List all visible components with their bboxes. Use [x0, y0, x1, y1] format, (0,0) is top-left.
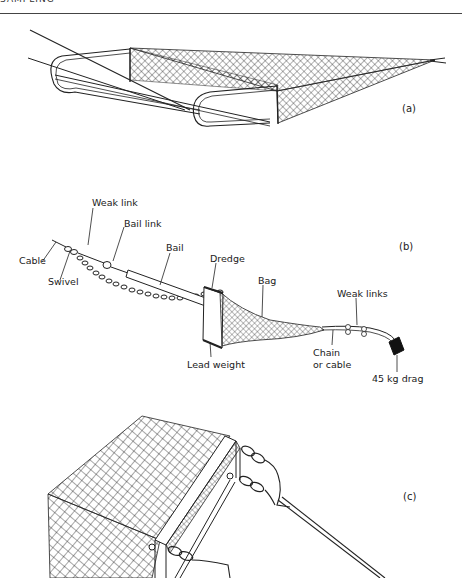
panel-c-drawing: [48, 416, 385, 578]
label-chain: Chain: [313, 348, 340, 358]
label-bail: Bail: [166, 243, 184, 253]
panel-label-c: (c): [403, 491, 416, 502]
figure-drawings: [0, 0, 462, 578]
label-bag: Bag: [258, 276, 276, 286]
panel-a-drawing: [28, 30, 446, 126]
label-lead-weight: Lead weight: [187, 360, 245, 370]
label-swivel: Swivel: [48, 277, 79, 287]
label-weak-links: Weak links: [337, 289, 388, 299]
label-bail-link: Bail link: [124, 219, 161, 229]
label-dredge: Dredge: [210, 254, 245, 264]
panel-label-a: (a): [402, 103, 416, 114]
label-drag: 45 kg drag: [372, 374, 423, 384]
label-cable: Cable: [19, 256, 46, 266]
label-weak-link: Weak link: [92, 198, 138, 208]
panel-label-b: (b): [399, 241, 413, 252]
label-or-cable: or cable: [313, 360, 351, 370]
